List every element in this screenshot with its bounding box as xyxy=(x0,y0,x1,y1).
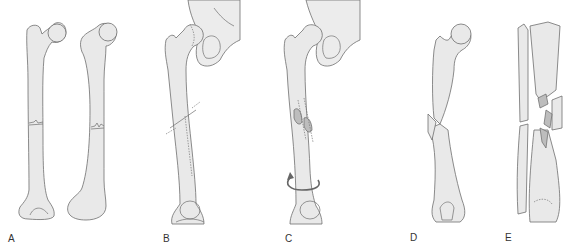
panel-b-oblique-fracture xyxy=(165,0,240,224)
panel-label-e: E xyxy=(505,233,512,243)
panel-label-d: D xyxy=(410,233,417,243)
panel-label-a: A xyxy=(8,234,15,244)
panel-label-c: C xyxy=(285,234,292,244)
panel-c-spiral-fracture xyxy=(284,0,360,224)
panel-e-comminuted-fracture xyxy=(517,22,562,222)
panel-label-b: B xyxy=(163,234,170,244)
panel-a-femur-side xyxy=(68,23,117,220)
panel-d-butterfly-fracture xyxy=(428,24,471,222)
fracture-illustration xyxy=(0,0,577,252)
panel-a-femur-front xyxy=(19,23,66,220)
